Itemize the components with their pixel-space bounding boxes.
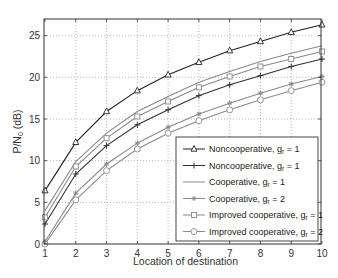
circle-marker-icon [288, 88, 294, 94]
star-marker-icon [104, 162, 109, 167]
triangle-marker-icon [319, 21, 325, 27]
square-marker-icon [227, 74, 232, 79]
square-marker-icon [135, 114, 140, 119]
circle-marker-icon [257, 97, 263, 103]
star-marker-icon [227, 101, 232, 106]
plus-marker-icon [319, 56, 325, 62]
x-tick-label: 2 [73, 248, 79, 259]
square-marker-icon [192, 213, 197, 218]
x-tick-label: 1 [42, 248, 48, 259]
x-tick-label: 8 [258, 248, 264, 259]
circle-marker-icon [191, 229, 197, 235]
square-marker-icon [258, 64, 263, 69]
x-tick-label: 3 [104, 248, 110, 259]
square-marker-icon [289, 57, 294, 62]
star-marker-icon [258, 91, 263, 96]
y-tick-label: 25 [29, 30, 41, 41]
plus-marker-icon [165, 107, 171, 113]
star-marker-icon [289, 82, 294, 87]
square-marker-icon [104, 136, 109, 141]
x-tick-label: 10 [316, 248, 328, 259]
x-axis-label: Location of destination [133, 255, 238, 267]
line-chart: 12345678910 0510152025 Location of desti… [0, 0, 338, 278]
circle-marker-icon [227, 107, 233, 113]
plus-marker-icon [134, 122, 140, 128]
square-marker-icon [73, 164, 78, 169]
square-marker-icon [43, 215, 48, 220]
y-tick-label: 5 [34, 197, 40, 208]
star-marker-icon [320, 74, 325, 79]
legend-label: Noncooperative, gr = 1 [209, 161, 299, 172]
x-tick-label: 9 [288, 248, 294, 259]
y-axis-label: P/N0 (dB) [11, 109, 24, 153]
circle-marker-icon [134, 146, 140, 152]
circle-marker-icon [319, 79, 325, 85]
star-marker-icon [192, 196, 197, 201]
plus-marker-icon [257, 73, 263, 79]
y-tick-label: 15 [29, 114, 41, 125]
legend: Noncooperative, gr = 1Noncooperative, gr… [176, 137, 323, 241]
y-axis-label-unit: (dB) [11, 109, 23, 132]
plus-marker-icon [196, 93, 202, 99]
y-tick-label: 0 [34, 239, 40, 250]
circle-marker-icon [73, 197, 79, 203]
y-axis-label-main: P/N [11, 136, 23, 154]
triangle-marker-icon [104, 108, 110, 114]
circle-marker-icon [165, 130, 171, 136]
legend-label: Cooperative, gr = 1 [209, 177, 285, 188]
y-tick-label: 20 [29, 72, 41, 83]
star-marker-icon [73, 191, 78, 196]
circle-marker-icon [104, 168, 110, 174]
circle-marker-icon [196, 118, 202, 124]
square-marker-icon [166, 99, 171, 104]
plus-marker-icon [42, 221, 48, 227]
plus-marker-icon [227, 82, 233, 88]
legend-label: Cooperative, gr = 2 [209, 194, 285, 205]
star-marker-icon [196, 112, 201, 117]
plus-marker-icon [288, 64, 294, 70]
legend-label: Noncooperative, gr = 1 [209, 144, 299, 155]
square-marker-icon [320, 49, 325, 54]
square-marker-icon [196, 85, 201, 90]
star-marker-icon [135, 141, 140, 146]
y-tick-label: 10 [29, 155, 41, 166]
star-marker-icon [166, 125, 171, 130]
